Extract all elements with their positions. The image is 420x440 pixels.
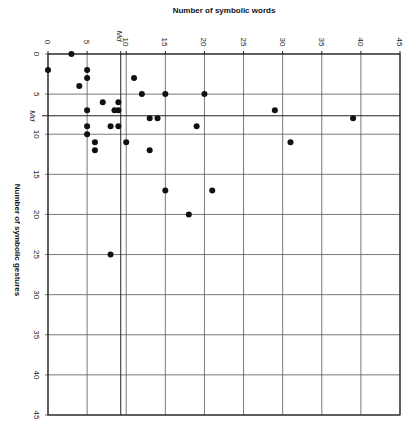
x-tick-label: 15 — [160, 38, 169, 47]
data-point — [108, 123, 114, 129]
x-axis-ticks: 051015202530354045 — [43, 38, 404, 54]
data-point — [272, 107, 278, 113]
data-point — [147, 115, 153, 121]
x-tick-label: 30 — [278, 38, 287, 47]
x-tick-label: 40 — [356, 38, 365, 47]
data-point — [100, 99, 106, 105]
data-point — [350, 115, 356, 121]
x-tick-label: 35 — [317, 38, 326, 47]
data-point — [68, 51, 74, 57]
data-point — [139, 91, 145, 97]
median-lines: MdMd — [28, 30, 400, 415]
plot-border — [48, 54, 400, 415]
grid-lines — [45, 54, 400, 415]
data-point — [155, 115, 161, 121]
y-tick-label: 0 — [32, 52, 41, 57]
data-point — [84, 123, 90, 129]
x-tick-label: 25 — [239, 38, 248, 47]
y-tick-label: 30 — [32, 290, 41, 299]
data-point — [162, 91, 168, 97]
data-point — [84, 131, 90, 137]
data-point — [92, 147, 98, 153]
x-tick-label: 10 — [121, 38, 130, 47]
y-tick-label: 5 — [32, 92, 41, 97]
data-point — [186, 211, 192, 217]
y-axis-ticks: 051015202530354045 — [32, 52, 41, 420]
y-tick-label: 20 — [32, 210, 41, 219]
data-point — [147, 147, 153, 153]
data-point — [131, 75, 137, 81]
data-point — [92, 139, 98, 145]
data-points — [45, 51, 356, 258]
data-point — [84, 67, 90, 73]
data-point — [209, 187, 215, 193]
data-point — [123, 139, 129, 145]
plot-frame — [48, 54, 400, 415]
x-tick-label: 45 — [395, 38, 404, 47]
data-point — [115, 99, 121, 105]
y-tick-label: 15 — [32, 170, 41, 179]
y-tick-label: 35 — [32, 330, 41, 339]
data-point — [287, 139, 293, 145]
y-tick-label: 10 — [32, 130, 41, 139]
x-tick-label: 20 — [199, 38, 208, 47]
x-axis-title: Number of symbolic words — [173, 6, 276, 15]
data-point — [162, 187, 168, 193]
y-tick-label: 25 — [32, 250, 41, 259]
data-point — [201, 91, 207, 97]
x-tick-label: 5 — [82, 40, 91, 45]
data-point — [115, 123, 121, 129]
data-point — [115, 107, 121, 113]
data-point — [84, 75, 90, 81]
x-tick-label: 0 — [43, 40, 52, 45]
y-tick-label: 40 — [32, 370, 41, 379]
y-axis-title: Number of symbolic gestures — [13, 184, 22, 297]
data-point — [45, 67, 51, 73]
scatter-chart: Number of symbolic words MdMd 0510152025… — [0, 0, 420, 440]
median-label-y: Md — [28, 110, 37, 122]
data-point — [76, 83, 82, 89]
y-tick-label: 45 — [32, 411, 41, 420]
data-point — [194, 123, 200, 129]
data-point — [84, 107, 90, 113]
data-point — [108, 252, 114, 258]
